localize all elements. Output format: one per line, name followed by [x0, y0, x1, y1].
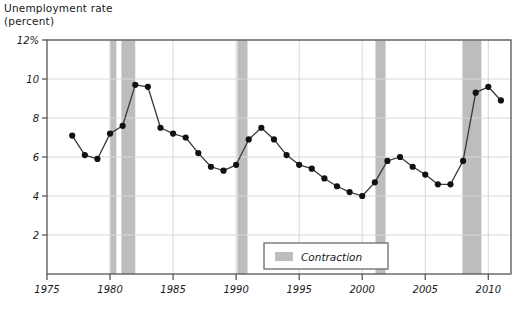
data-point-marker	[183, 134, 189, 140]
data-point-marker	[157, 125, 163, 131]
data-point-marker	[359, 193, 365, 199]
x-axis-tick-label: 1995	[286, 284, 311, 295]
x-axis-tick-label: 1990	[223, 284, 248, 295]
data-point-marker	[460, 158, 466, 164]
data-point-marker	[309, 166, 315, 172]
data-point-marker	[107, 131, 113, 137]
data-point-marker	[347, 189, 353, 195]
data-point-marker	[233, 162, 239, 168]
x-axis-tick-label: 2000	[349, 284, 374, 295]
data-point-marker	[384, 158, 390, 164]
x-axis-tick-label: 2005	[413, 284, 438, 295]
data-point-marker	[195, 150, 201, 156]
data-point-marker	[271, 136, 277, 142]
data-point-marker	[120, 123, 126, 129]
data-point-marker	[447, 181, 453, 187]
data-point-marker	[473, 90, 479, 96]
y-axis-tick-label: 4	[33, 191, 39, 202]
data-point-marker	[435, 181, 441, 187]
data-point-marker	[170, 131, 176, 137]
x-axis-tick-label: 1980	[97, 284, 122, 295]
y-axis-tick-label: 12%	[17, 35, 39, 46]
chart-plot-area: 24681012%1975198019851990199520002005201…	[0, 0, 517, 314]
data-point-marker	[498, 97, 504, 103]
data-point-marker	[410, 164, 416, 170]
data-point-marker	[422, 171, 428, 177]
data-point-marker	[94, 156, 100, 162]
data-point-marker	[296, 162, 302, 168]
x-axis-tick-label: 1975	[34, 284, 59, 295]
data-point-marker	[334, 183, 340, 189]
data-point-marker	[220, 168, 226, 174]
x-axis-tick-label: 2010	[476, 284, 501, 295]
data-point-marker	[145, 84, 151, 90]
data-point-marker	[69, 132, 75, 138]
unemployment-rate-chart: Unemployment rate (percent) 24681012%197…	[0, 0, 517, 314]
data-point-marker	[132, 82, 138, 88]
legend-label-contraction: Contraction	[301, 251, 362, 263]
data-point-marker	[485, 84, 491, 90]
data-point-marker	[258, 125, 264, 131]
data-point-marker	[321, 175, 327, 181]
data-point-marker	[82, 152, 88, 158]
legend-swatch-contraction	[275, 252, 293, 261]
y-axis-group: 24681012%	[17, 35, 47, 241]
y-axis-tick-label: 6	[33, 152, 39, 163]
y-axis-tick-label: 2	[33, 230, 39, 241]
y-axis-tick-label: 8	[33, 113, 39, 124]
data-point-marker	[246, 136, 252, 142]
data-point-marker	[397, 154, 403, 160]
x-axis-group: 19751980198519901995200020052010	[34, 274, 501, 295]
data-point-marker	[208, 164, 214, 170]
y-axis-tick-label: 10	[26, 74, 39, 85]
data-point-marker	[283, 152, 289, 158]
legend: Contraction	[264, 243, 388, 269]
data-point-marker	[372, 179, 378, 185]
x-axis-tick-label: 1985	[160, 284, 185, 295]
